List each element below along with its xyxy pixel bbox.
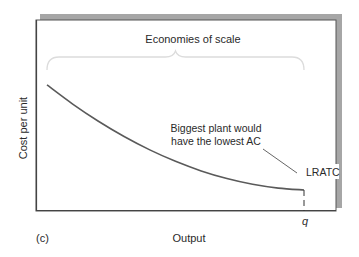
chart: Economies of scale Biggest plant would h… (0, 0, 359, 257)
panel-label: (c) (36, 232, 49, 244)
x-axis-label: Output (172, 232, 205, 244)
curve-label-lratc: LRATC (306, 166, 340, 178)
y-axis-label: Cost per unit (17, 97, 29, 159)
note-line-1: Biggest plant would (170, 122, 261, 134)
note-line-2: have the lowest AC (171, 135, 261, 147)
x-tick-label-q: q (302, 215, 309, 227)
plot-frame (36, 20, 336, 211)
frame-shadow-top (40, 14, 342, 20)
brace-label: Economies of scale (145, 33, 240, 45)
